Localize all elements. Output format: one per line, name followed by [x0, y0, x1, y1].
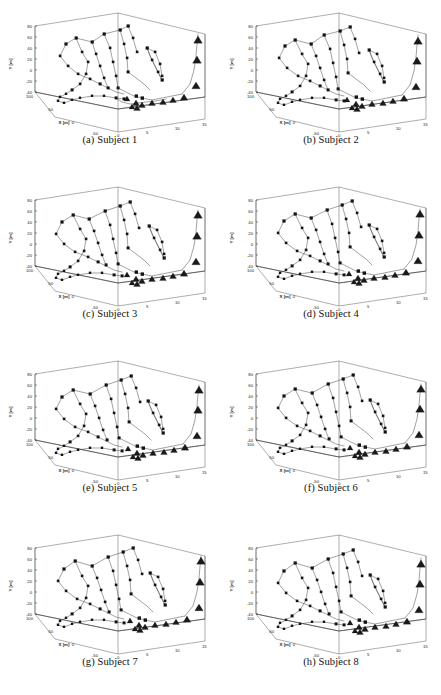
svg-text:40: 40: [248, 220, 253, 225]
svg-text:20: 20: [27, 231, 32, 236]
svg-text:80: 80: [27, 372, 32, 377]
svg-text:60: 60: [248, 35, 253, 40]
svg-text:0: 0: [251, 590, 254, 595]
panel-f: 80 60 40 20 0 -20 -40 100 50 0 -50 0 5: [221, 352, 441, 526]
square-markers-a: [57, 24, 164, 104]
triangle-markers-h: [347, 560, 425, 635]
svg-text:20: 20: [27, 579, 32, 584]
plot-svg-b: 80 60 40 20 0 -20 -40 100 50 0 -50 0 5: [221, 4, 441, 154]
panel-c: 80 60 40 20 0 -20 -40 100 50 0 -50 0 5: [0, 178, 220, 352]
y-ticks-b: [256, 26, 258, 92]
triangle-markers-f: [347, 385, 425, 460]
y-ticks-c: [35, 200, 37, 266]
y-axis-label-d: Y [m]: [229, 232, 234, 243]
svg-text:50: 50: [48, 107, 53, 112]
svg-text:80: 80: [248, 198, 253, 203]
axes-box-f: [256, 361, 426, 480]
svg-text:20: 20: [248, 579, 253, 584]
y-tick-labels-c: 80 60 40 20 0 -20 -40: [26, 198, 33, 269]
svg-text:40: 40: [248, 394, 253, 399]
trajectory-lines-f: [278, 375, 421, 454]
plot-svg-g: 80 60 40 20 0 -20 -40 100 50 0 -50 0 5: [0, 526, 220, 676]
svg-text:100: 100: [26, 442, 34, 447]
svg-text:100: 100: [247, 94, 255, 99]
y-axis-label-g: Y [m]: [8, 580, 13, 591]
svg-text:10: 10: [175, 300, 180, 305]
svg-text:50: 50: [48, 629, 53, 634]
svg-text:15: 15: [423, 296, 428, 301]
panel-caption-a: (a) Subject 1: [0, 134, 220, 145]
y-ticks-e: [35, 374, 37, 440]
svg-text:60: 60: [248, 557, 253, 562]
square-markers-h: [277, 548, 387, 630]
plot-svg-f: 80 60 40 20 0 -20 -40 100 50 0 -50 0 5: [221, 352, 441, 502]
svg-text:40: 40: [27, 568, 32, 573]
svg-text:0: 0: [72, 120, 75, 125]
trajectory-lines-a: [58, 26, 198, 104]
svg-text:20: 20: [27, 57, 32, 62]
figure-root: 80 60 40 20 0 -20 -40 100 50 0 -50 0 5: [0, 0, 441, 695]
svg-text:60: 60: [248, 209, 253, 214]
x-depth-tick-labels-f: 100 50 0 -50: [247, 442, 320, 484]
svg-text:0: 0: [30, 590, 33, 595]
panel-caption-c: (c) Subject 3: [0, 308, 220, 319]
svg-text:-20: -20: [26, 427, 33, 432]
panel-d: 80 60 40 20 0 -20 -40 100 50 0 -50 0 5: [221, 178, 441, 352]
svg-text:15: 15: [423, 122, 428, 127]
svg-text:20: 20: [248, 57, 253, 62]
svg-text:-20: -20: [247, 253, 254, 258]
x-axis-label-c: X [m]: [59, 294, 71, 299]
trajectory-lines-e: [56, 376, 199, 455]
square-markers-g: [57, 546, 167, 628]
svg-text:80: 80: [27, 198, 32, 203]
y-tick-labels-b: 80 60 40 20 0 -20 -40: [247, 24, 254, 95]
y-ticks-g: [35, 548, 37, 614]
x-axis-label-f: X [m]: [280, 468, 292, 473]
svg-text:80: 80: [248, 372, 253, 377]
y-ticks-f: [256, 374, 258, 440]
svg-text:0: 0: [293, 642, 296, 647]
panel-h: 80 60 40 20 0 -20 -40 100 60 0 -50 0 5: [221, 526, 441, 695]
svg-text:-20: -20: [247, 601, 254, 606]
trajectory-lines-b: [278, 27, 418, 105]
svg-text:15: 15: [202, 644, 207, 649]
y-tick-labels-a: 80 60 40 20 0 -20 -40: [26, 24, 33, 95]
svg-text:0: 0: [251, 68, 254, 73]
plot-g: 80 60 40 20 0 -20 -40 100 50 0 -50 0 5: [0, 526, 220, 676]
y-axis-label-e: Y [m]: [8, 406, 13, 417]
square-markers-e: [55, 374, 165, 456]
square-markers-d: [277, 199, 386, 280]
svg-text:40: 40: [27, 394, 32, 399]
svg-text:15: 15: [202, 470, 207, 475]
svg-text:0: 0: [293, 120, 296, 125]
svg-text:15: 15: [423, 644, 428, 649]
y-ticks-d: [256, 200, 258, 266]
y-tick-labels-f: 80 60 40 20 0 -20 -40: [247, 372, 254, 443]
svg-text:0: 0: [293, 468, 296, 473]
svg-text:0: 0: [72, 642, 75, 647]
svg-text:15: 15: [202, 122, 207, 127]
square-markers-c: [55, 200, 166, 281]
trajectory-lines-g: [58, 548, 201, 627]
y-tick-labels-d: 80 60 40 20 0 -20 -40: [247, 198, 254, 269]
svg-text:10: 10: [396, 474, 401, 479]
x-axis-label-a: X [m]: [59, 120, 71, 125]
svg-text:60: 60: [269, 629, 274, 634]
x-depth-tick-labels-a: 100 50 0 -50: [26, 94, 99, 136]
y-axis-label-h: Y [m]: [229, 580, 234, 591]
plot-svg-a: 80 60 40 20 0 -20 -40 100 50 0 -50 0 5: [0, 4, 220, 154]
panel-a: 80 60 40 20 0 -20 -40 100 50 0 -50 0 5: [0, 4, 220, 178]
svg-text:80: 80: [248, 546, 253, 551]
svg-text:50: 50: [48, 281, 53, 286]
triangle-markers-d: [346, 210, 424, 286]
svg-text:100: 100: [26, 616, 34, 621]
x-depth-tick-labels-b: 100 50 0 -50: [247, 94, 320, 136]
svg-text:20: 20: [248, 405, 253, 410]
trajectory-lines-d: [278, 201, 420, 279]
plot-a: 80 60 40 20 0 -20 -40 100 50 0 -50 0 5: [0, 4, 220, 154]
trajectory-lines-h: [278, 550, 421, 629]
plot-b: 80 60 40 20 0 -20 -40 100 50 0 -50 0 5: [221, 4, 441, 154]
y-ticks-h: [256, 548, 258, 614]
plot-c: 80 60 40 20 0 -20 -40 100 50 0 -50 0 5: [0, 178, 220, 328]
svg-text:100: 100: [26, 268, 34, 273]
